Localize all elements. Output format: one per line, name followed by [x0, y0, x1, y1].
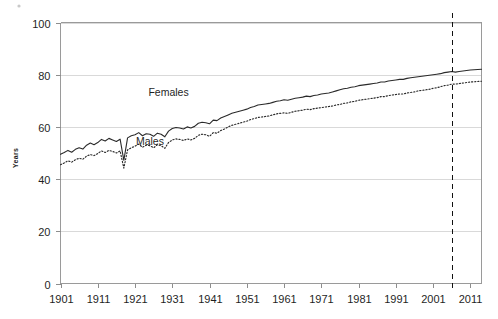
x-tick-label-1971: 1971	[309, 293, 333, 305]
y-tick-label-20: 20	[38, 226, 50, 238]
x-tick-label-1941: 1941	[198, 293, 222, 305]
series-annotation-males: Males	[136, 135, 164, 147]
x-tick-label-1911: 1911	[87, 293, 111, 305]
x-tick-label-1951: 1951	[235, 293, 259, 305]
x-tick-label-1991: 1991	[384, 293, 408, 305]
chart-background	[0, 0, 498, 319]
y-tick-label-0: 0	[44, 279, 50, 291]
scan-speck-artifact	[17, 4, 20, 7]
x-tick-label-1981: 1981	[347, 293, 371, 305]
life-expectancy-line-chart: 020406080100 190119111921193119411951196…	[0, 0, 498, 319]
x-tick-label-1921: 1921	[123, 293, 147, 305]
x-tick-label-1901: 1901	[49, 293, 73, 305]
chart-container: 020406080100 190119111921193119411951196…	[0, 0, 498, 319]
x-tick-label-1931: 1931	[160, 293, 184, 305]
x-tick-label-1961: 1961	[272, 293, 296, 305]
series-annotation-females: Females	[148, 86, 188, 98]
y-tick-label-40: 40	[38, 174, 50, 186]
x-tick-label-2001: 2001	[421, 293, 445, 305]
y-axis-title: Years	[12, 148, 19, 168]
x-tick-label-2011: 2011	[459, 293, 483, 305]
y-tick-label-60: 60	[38, 122, 50, 134]
y-tick-label-80: 80	[38, 70, 50, 82]
y-tick-label-100: 100	[32, 18, 50, 30]
